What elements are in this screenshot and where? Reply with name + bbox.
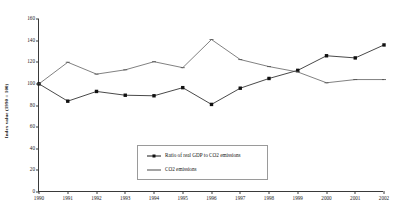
data-point-marker <box>210 103 213 106</box>
legend-label-co2: CO2 emissions <box>165 167 197 172</box>
x-tick-label: 1998 <box>264 196 274 201</box>
x-tick-label: 2002 <box>379 196 389 201</box>
data-point-marker <box>181 86 184 89</box>
x-tick-label: 1996 <box>206 196 216 201</box>
x-tick-label: 2001 <box>350 196 360 201</box>
x-tick-label: 1992 <box>91 196 101 201</box>
x-tick-label: 1997 <box>235 196 245 201</box>
legend-item-ratio: Ratio of real GDP to CO2 emissions <box>147 153 241 159</box>
data-point-marker <box>382 43 385 46</box>
data-point-marker <box>267 77 270 80</box>
x-tick-label: 2000 <box>321 196 331 201</box>
x-tick-label: 1994 <box>149 196 159 201</box>
data-point-marker <box>239 87 242 90</box>
x-tick-label: 1991 <box>63 196 73 201</box>
data-point-marker <box>152 94 155 97</box>
legend-marker-dash-icon <box>147 167 161 173</box>
legend-marker-square-icon <box>147 153 161 159</box>
data-point-marker <box>354 56 357 59</box>
data-point-marker <box>124 94 127 97</box>
series-line-co2 <box>39 40 384 84</box>
legend: Ratio of real GDP to CO2 emissions CO2 e… <box>137 145 268 180</box>
series-line-ratio <box>39 45 384 104</box>
x-tick-label: 1995 <box>178 196 188 201</box>
data-point-marker <box>95 90 98 93</box>
data-point-marker <box>66 99 69 102</box>
legend-item-co2: CO2 emissions <box>147 167 197 173</box>
y-axis-title: Index value (1990 = 100) <box>4 83 9 138</box>
line-chart: Index value (1990 = 100) 020406080100120… <box>0 0 398 221</box>
x-tick-label: 1993 <box>120 196 130 201</box>
legend-label-ratio: Ratio of real GDP to CO2 emissions <box>165 153 241 158</box>
x-tick-label: 1999 <box>293 196 303 201</box>
data-point-marker <box>325 54 328 57</box>
x-tick-label: 1990 <box>34 196 44 201</box>
